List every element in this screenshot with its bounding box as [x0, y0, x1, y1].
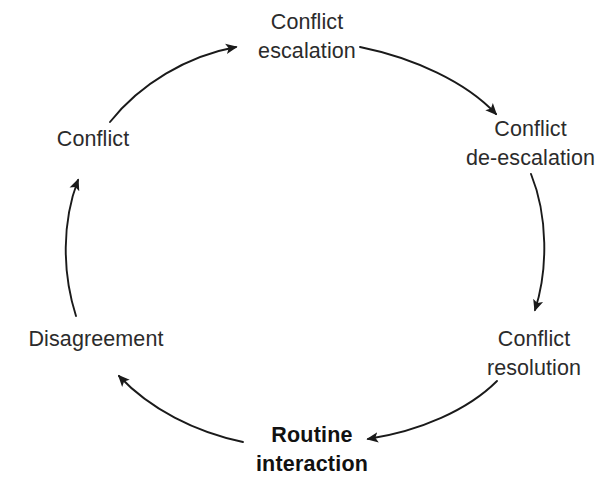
node-conflict: Conflict: [13, 125, 173, 154]
node-conflict-line-1: Conflict: [13, 125, 173, 154]
node-conflict-de-escalation-line-1: Conflict: [455, 115, 606, 144]
node-disagreement: Disagreement: [6, 325, 186, 354]
node-conflict-de-escalation-line-2: de-escalation: [455, 144, 606, 173]
node-conflict-escalation-line-2: escalation: [207, 37, 407, 66]
node-conflict-escalation: Conflict escalation: [207, 8, 407, 66]
node-routine-interaction: Routine interaction: [224, 421, 400, 479]
node-conflict-resolution: Conflict resolution: [462, 325, 606, 383]
node-conflict-resolution-line-2: resolution: [462, 354, 606, 383]
node-conflict-escalation-line-1: Conflict: [207, 8, 407, 37]
node-disagreement-line-1: Disagreement: [6, 325, 186, 354]
node-routine-interaction-line-1: Routine: [224, 421, 400, 450]
node-routine-interaction-line-2: interaction: [224, 450, 400, 479]
conflict-cycle-diagram: Conflict escalation Conflict de-escalati…: [0, 0, 606, 489]
arrow-conflict-de-escalation-to-conflict-resolution: [531, 174, 544, 310]
node-conflict-resolution-line-1: Conflict: [462, 325, 606, 354]
node-conflict-de-escalation: Conflict de-escalation: [455, 115, 606, 173]
arrow-disagreement-to-conflict: [66, 180, 78, 316]
cycle-arrows-canvas: [0, 0, 606, 489]
